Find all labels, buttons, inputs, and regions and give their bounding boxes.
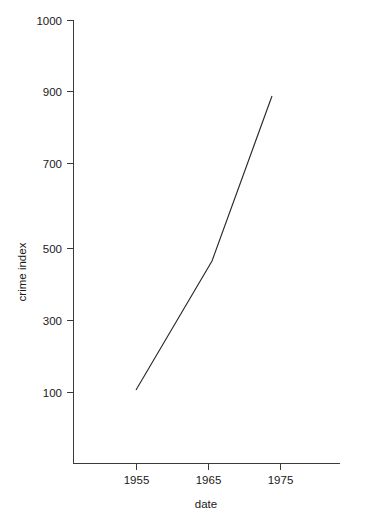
- y-tick-label-700: 700: [43, 158, 62, 170]
- line-chart-canvas: 1000 900 700 500 300 100 1955 1965 1975 …: [0, 0, 367, 521]
- y-tick-label-900: 900: [43, 86, 62, 98]
- x-tick-label-1975: 1975: [268, 474, 294, 486]
- y-axis-title: crime index: [16, 242, 28, 301]
- y-tick-label-500: 500: [43, 243, 62, 255]
- y-tick-label-300: 300: [43, 315, 62, 327]
- y-tick-label-1000: 1000: [36, 15, 62, 27]
- x-tick-label-1965: 1965: [196, 474, 222, 486]
- y-tick-label-100: 100: [43, 387, 62, 399]
- x-tick-label-1955: 1955: [124, 474, 150, 486]
- chart-container: 1000 900 700 500 300 100 1955 1965 1975 …: [0, 0, 367, 521]
- crime-index-series-line: [136, 96, 272, 390]
- x-axis-title: date: [195, 498, 217, 510]
